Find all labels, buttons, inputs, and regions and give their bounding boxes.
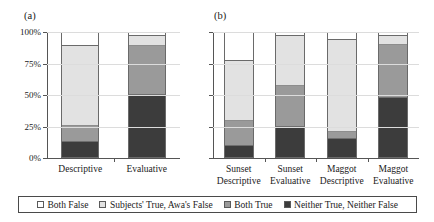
- panel-b-label: (b): [214, 10, 226, 21]
- y-tick-mark: [43, 95, 47, 96]
- y-tick-mark: [43, 127, 47, 128]
- bar-segment[interactable]: [379, 45, 407, 98]
- x-tick-label: Sunset Evaluative: [270, 163, 311, 187]
- bar-segment[interactable]: [276, 36, 304, 85]
- bar-segment[interactable]: [62, 46, 98, 126]
- x-tick-labels-a: DescriptiveEvaluative: [47, 163, 180, 191]
- bar-segment[interactable]: [276, 127, 304, 157]
- figure-root: (a) 0%25%50%75%100% DescriptiveEvaluativ…: [0, 0, 434, 222]
- x-tick-label: Maggot Evaluative: [373, 163, 414, 187]
- gridline: [213, 95, 419, 96]
- panel-b: (b) Sunset DescriptiveSunset EvaluativeM…: [196, 0, 434, 192]
- y-tick-label: 75%: [25, 59, 42, 69]
- y-tick-mark: [43, 64, 47, 65]
- plot-area-b: [213, 32, 419, 158]
- y-tick-mark: [209, 64, 213, 65]
- gridline: [213, 64, 419, 65]
- gridline: [47, 32, 180, 33]
- bar-segment[interactable]: [276, 86, 304, 127]
- legend-label: Neither True, Neither False: [294, 200, 398, 210]
- y-tick-mark: [209, 158, 213, 159]
- bar-segment[interactable]: [225, 121, 253, 146]
- y-tick-label: 50%: [25, 90, 42, 100]
- x-tick-mark: [316, 158, 317, 162]
- legend-swatch-icon: [99, 201, 106, 208]
- bar-segment[interactable]: [129, 36, 165, 45]
- bar-segment[interactable]: [62, 142, 98, 157]
- gridline: [213, 32, 419, 33]
- y-tick-mark: [209, 32, 213, 33]
- x-tick-label: Descriptive: [58, 163, 102, 175]
- gridline: [213, 127, 419, 128]
- legend-item[interactable]: Both False: [37, 200, 88, 210]
- legend-label: Subjects' True, Awa's False: [110, 200, 213, 210]
- y-tick-label: 100%: [20, 27, 41, 37]
- legend-item[interactable]: Both True: [224, 200, 273, 210]
- bar-segment[interactable]: [328, 40, 356, 132]
- x-tick-label: Maggot Descriptive: [320, 163, 364, 187]
- x-tick-labels-b: Sunset DescriptiveSunset EvaluativeMaggo…: [213, 163, 419, 191]
- y-tick-label: 0%: [29, 153, 41, 163]
- x-tick-mark: [368, 158, 369, 162]
- panel-a: (a) 0%25%50%75%100% DescriptiveEvaluativ…: [0, 0, 200, 192]
- y-tick-mark: [209, 127, 213, 128]
- bar-segment[interactable]: [62, 33, 98, 46]
- x-tick-label: Evaluative: [126, 163, 167, 175]
- legend-item[interactable]: Neither True, Neither False: [284, 200, 398, 210]
- bar-segment[interactable]: [225, 61, 253, 121]
- legend-swatch-icon: [284, 201, 291, 208]
- bar-segment[interactable]: [328, 132, 356, 139]
- gridline: [47, 64, 180, 65]
- legend-label: Both True: [234, 200, 272, 210]
- gridline: [47, 127, 180, 128]
- legend-swatch-icon: [224, 201, 231, 208]
- x-tick-mark: [114, 158, 115, 162]
- x-tick-mark: [265, 158, 266, 162]
- legend-swatch-icon: [37, 201, 44, 208]
- y-tick-mark: [43, 158, 47, 159]
- gridline: [47, 95, 180, 96]
- bar-segment[interactable]: [328, 33, 356, 40]
- bar-segment[interactable]: [225, 33, 253, 61]
- y-tick-mark: [43, 32, 47, 33]
- legend-label: Both False: [48, 200, 89, 210]
- bar-segment[interactable]: [129, 46, 165, 95]
- plot-area-a: 0%25%50%75%100%: [47, 32, 180, 158]
- legend-item[interactable]: Subjects' True, Awa's False: [99, 200, 212, 210]
- legend: Both FalseSubjects' True, Awa's FalseBot…: [18, 196, 417, 213]
- bar-segment[interactable]: [225, 146, 253, 157]
- bar-segment[interactable]: [62, 126, 98, 143]
- panel-a-label: (a): [24, 10, 36, 21]
- x-tick-label: Sunset Descriptive: [217, 163, 261, 187]
- bar-segment[interactable]: [328, 139, 356, 157]
- bar-segment[interactable]: [379, 36, 407, 44]
- y-tick-label: 25%: [25, 122, 42, 132]
- y-tick-mark: [209, 95, 213, 96]
